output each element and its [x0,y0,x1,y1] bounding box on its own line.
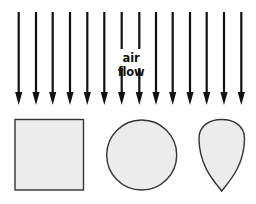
air-flow-label: air flow [108,51,154,79]
arrow-head-icon [169,92,176,105]
arrow-head-icon [101,92,108,105]
teardrop-shape [199,120,245,192]
arrow-head-icon [49,92,56,105]
circle-shape [107,120,177,190]
arrow-head-icon [186,92,193,105]
arrow-head-icon [136,92,143,105]
arrow-head-icon [238,92,245,105]
arrow-head-icon [84,92,91,105]
arrow-head-icon [32,92,39,105]
arrow-head-icon [15,92,22,105]
airflow-diagram [0,0,256,204]
arrow-head-icon [66,92,73,105]
square-shape [15,120,84,191]
arrow-head-icon [220,92,227,105]
arrow-head-icon [203,92,210,105]
arrow-head-icon [118,92,125,105]
arrow-head-icon [152,92,159,105]
